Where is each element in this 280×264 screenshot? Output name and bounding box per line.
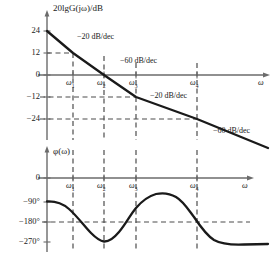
- phase-xtick-label-w1: ω1: [66, 182, 74, 192]
- phase-x-axis-arrow: [247, 176, 254, 181]
- magnitude-annotation-slope-4: −60 dB/dec: [213, 127, 250, 135]
- bode-plot-figure: 20lgG(jω)/dB 24 12 0 −12 −24 ω1 ω2 ω3 ω4…: [0, 0, 280, 264]
- phase-ytick-label-0: 0: [18, 173, 40, 182]
- phase-ytick-label-neg90: −90°: [8, 197, 40, 206]
- magnitude-annotation-slope-1: −20 dB/dec: [77, 33, 114, 41]
- phase-xtick-label-w2: ω2: [97, 182, 105, 192]
- phase-y-axis-title: φ(ω): [53, 147, 70, 156]
- phase-ytick-label-neg270: −270°: [2, 237, 40, 246]
- phase-ytick-label-neg180: −180°: [2, 217, 40, 226]
- magnitude-x-axis-arrow: [263, 73, 270, 78]
- magnitude-annotation-slope-3: −20 dB/dec: [150, 92, 187, 100]
- magnitude-y-axis-title: 20lgG(jω)/dB: [53, 4, 103, 13]
- magnitude-xtick-label-w1: ω1: [66, 79, 74, 89]
- magnitude-ytick-label-24: 24: [18, 26, 40, 35]
- magnitude-ytick-label-12: 12: [18, 48, 40, 57]
- magnitude-ytick-label-neg24: −24: [12, 114, 40, 123]
- phase-curve: [47, 193, 268, 244]
- phase-x-axis-label: ω: [242, 182, 248, 190]
- magnitude-ytick-label-0: 0: [18, 70, 40, 79]
- phase-y-axis-arrow: [45, 146, 50, 153]
- magnitude-y-axis-arrow: [45, 10, 50, 17]
- magnitude-x-axis-label: ω: [258, 79, 264, 87]
- magnitude-xtick-label-w3: ω3: [129, 79, 137, 89]
- magnitude-annotation-slope-2: −60 dB/dec: [120, 57, 157, 65]
- phase-xtick-label-w4: ω4: [190, 182, 198, 192]
- phase-xtick-label-w3: ω3: [129, 182, 137, 192]
- phase-plot-group: [38, 146, 268, 252]
- magnitude-xtick-label-w2: ω2: [97, 79, 105, 89]
- magnitude-xtick-label-w4: ω4: [190, 79, 198, 89]
- magnitude-ytick-label-neg12: −12: [12, 92, 40, 101]
